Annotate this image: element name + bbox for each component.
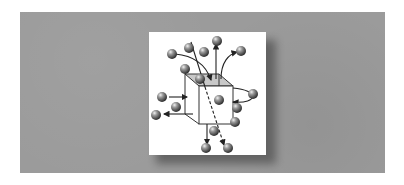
diagram-card [149,32,266,155]
cube-molecule-diagram [149,32,266,155]
